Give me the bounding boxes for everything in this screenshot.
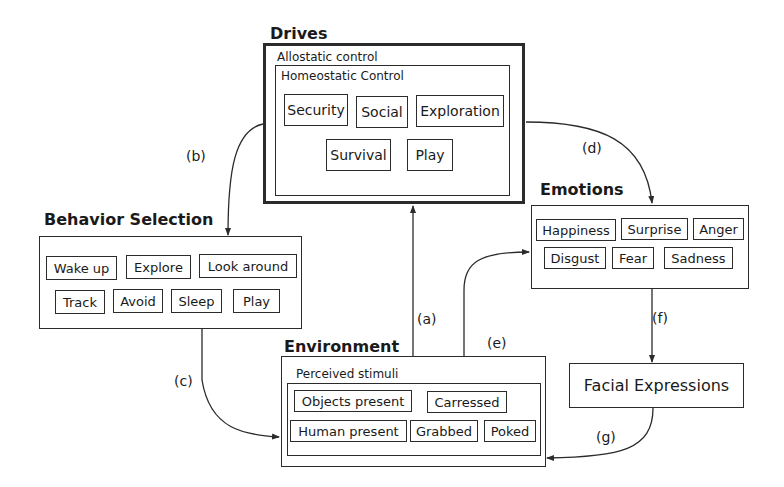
behavior-avoid: Avoid	[113, 289, 163, 313]
behavior-look-around: Look around	[199, 254, 297, 278]
edge-label-d: (d)	[582, 140, 602, 156]
behavior-selection-box: Wake up Explore Look around Track Avoid …	[39, 236, 302, 329]
stimulus-carressed: Carressed	[427, 391, 507, 413]
stimulus-grabbed: Grabbed	[410, 420, 478, 442]
edge-label-a: (a)	[417, 311, 437, 327]
drives-title: Drives	[270, 24, 327, 43]
facial-expressions-box: Facial Expressions	[569, 363, 744, 408]
edge-label-g: (g)	[596, 429, 616, 445]
arrow-b	[228, 124, 263, 235]
perceived-stimuli-label: Perceived stimuli	[296, 367, 398, 381]
edge-label-e: (e)	[487, 335, 507, 351]
behavior-selection-title: Behavior Selection	[44, 210, 213, 229]
behavior-explore: Explore	[126, 255, 191, 279]
edge-label-f: (f)	[652, 310, 668, 326]
emotion-happiness: Happiness	[536, 219, 616, 241]
drive-exploration: Exploration	[416, 95, 504, 127]
perceived-stimuli-box: Objects present Carressed Human present …	[287, 383, 541, 456]
behavior-play: Play	[233, 289, 280, 313]
emotion-sadness: Sadness	[664, 247, 733, 269]
stimulus-human-present: Human present	[290, 420, 407, 442]
drive-social: Social	[356, 96, 408, 128]
edge-label-b: (b)	[186, 148, 206, 164]
drive-security: Security	[284, 94, 348, 126]
facial-expressions-label: Facial Expressions	[584, 376, 729, 395]
emotion-fear: Fear	[612, 247, 654, 269]
emotions-box: Happiness Surprise Anger Disgust Fear Sa…	[531, 205, 749, 289]
emotion-surprise: Surprise	[621, 218, 688, 240]
emotion-disgust: Disgust	[544, 247, 606, 269]
drive-survival: Survival	[326, 139, 391, 171]
behavior-wake-up: Wake up	[46, 256, 117, 280]
behavior-sleep: Sleep	[171, 289, 222, 313]
drives-box: Allostatic control Homeostatic Control S…	[263, 43, 525, 204]
homeostatic-control-label: Homeostatic Control	[281, 69, 404, 83]
stimulus-poked: Poked	[484, 420, 536, 442]
environment-box: Perceived stimuli Objects present Carres…	[281, 356, 546, 467]
edge-label-c: (c)	[174, 373, 193, 389]
homeostatic-control-box: Homeostatic Control Security Social Expl…	[275, 65, 510, 196]
behavior-track: Track	[55, 290, 105, 314]
emotions-title: Emotions	[540, 180, 624, 199]
arrow-c	[202, 328, 279, 437]
drive-play: Play	[407, 139, 453, 171]
stimulus-objects-present: Objects present	[294, 390, 412, 412]
allostatic-control-label: Allostatic control	[277, 50, 378, 64]
emotion-anger: Anger	[693, 218, 744, 240]
environment-title: Environment	[284, 337, 399, 356]
